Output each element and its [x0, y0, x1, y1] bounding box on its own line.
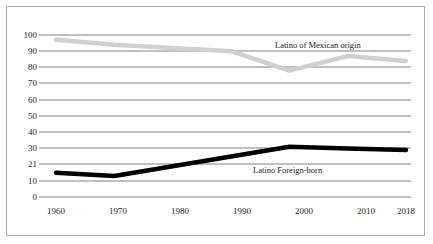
plot-area: 100 90 80 70 60 50 40 30 21 10 0	[7, 7, 426, 237]
x-tick-label: 1960	[33, 206, 79, 216]
x-tick-label: 2000	[281, 206, 327, 216]
series-line-latino-foreign-born	[56, 147, 406, 176]
x-tick-label: 1980	[157, 206, 203, 216]
chart-frame: 100 90 80 70 60 50 40 30 21 10 0	[6, 6, 425, 236]
series-label-latino-foreign-born: Latino Foreign-born	[251, 165, 324, 175]
series-label-latino-mexican-origin: Latino of Mexican origin	[273, 40, 363, 50]
chart-svg	[7, 7, 426, 237]
x-tick-label: 1970	[95, 206, 141, 216]
x-tick-label: 1990	[219, 206, 265, 216]
x-tick-label: 2018	[383, 206, 429, 216]
